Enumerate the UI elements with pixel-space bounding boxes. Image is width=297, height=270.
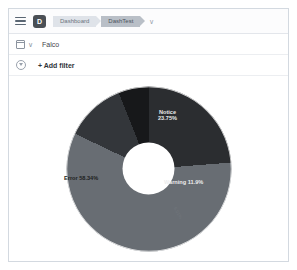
- top-navigation-bar: D Dashboard DashTest ∨: [9, 9, 288, 34]
- chart-panel: Notice 23.75% Error 58.34% Warning 11.9%…: [9, 76, 288, 261]
- chevron-down-icon[interactable]: ∨: [149, 18, 154, 25]
- query-input[interactable]: Falco: [42, 41, 59, 48]
- breadcrumb-item-dashtest[interactable]: DashTest: [101, 16, 140, 27]
- donut-chart: Notice 23.75% Error 58.34% Warning 11.9%…: [66, 86, 231, 251]
- query-bar: ∨ Falco: [9, 34, 288, 55]
- breadcrumb-item-dashboard[interactable]: Dashboard: [53, 16, 96, 27]
- breadcrumb: Dashboard DashTest ∨: [53, 16, 154, 27]
- hamburger-menu-icon[interactable]: [15, 17, 26, 26]
- add-filter-button[interactable]: + Add filter: [38, 62, 75, 69]
- app-logo[interactable]: D: [33, 15, 46, 28]
- date-picker-button[interactable]: ∨: [16, 40, 33, 49]
- donut-center-hole: [123, 143, 175, 195]
- dashboard-app: D Dashboard DashTest ∨ ∨ Falco + Add fil…: [8, 8, 289, 262]
- donut-slices[interactable]: [66, 86, 231, 251]
- chevron-down-icon: ∨: [28, 41, 33, 48]
- calendar-icon: [16, 40, 25, 49]
- funnel-icon[interactable]: [16, 60, 26, 70]
- filter-bar: + Add filter: [9, 55, 288, 76]
